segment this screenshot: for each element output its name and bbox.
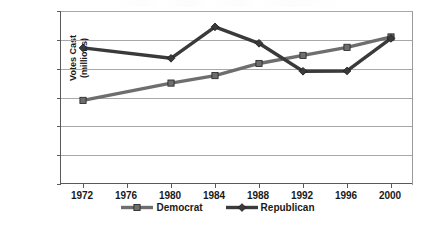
legend-swatch-square-icon [120,202,154,213]
x-tick-mark [259,184,260,188]
data-point-democrat [344,44,350,50]
x-tick-mark [215,184,216,188]
legend-swatch-diamond-icon [225,202,259,213]
x-tick-label: 1980 [147,190,193,201]
x-tick-mark [303,184,304,188]
legend-item-democrat[interactable]: Democrat [120,202,202,213]
data-point-democrat [256,60,262,66]
x-tick-mark [171,184,172,188]
series-plot [61,11,413,184]
x-tick-label: 1996 [323,190,369,201]
x-tick-mark [83,184,84,188]
data-point-democrat [168,80,174,86]
data-point-republican [79,44,87,52]
x-tick-mark [347,184,348,188]
legend-label: Democrat [156,202,202,213]
cropped-title-remnant [110,0,340,7]
chart-legend: DemocratRepublican [0,202,435,213]
x-tick-label: 1988 [235,190,281,201]
x-tick-mark [127,184,128,188]
data-point-democrat [212,72,218,78]
x-tick-label: 1984 [191,190,237,201]
x-tick-label: 1992 [279,190,325,201]
legend-item-republican[interactable]: Republican [225,202,315,213]
x-tick-mark [391,184,392,188]
x-tick-label: 1976 [103,190,149,201]
y-tick-mark [57,184,61,185]
data-point-democrat [300,52,306,58]
plot-area: Votes Cast (millions) [60,11,412,184]
legend-label: Republican [261,202,315,213]
data-point-democrat [80,97,86,103]
x-tick-label: 1972 [59,190,105,201]
x-tick-label: 2000 [367,190,413,201]
votes-cast-line-chart: Votes Cast (millions) 197219761980198419… [0,0,435,226]
